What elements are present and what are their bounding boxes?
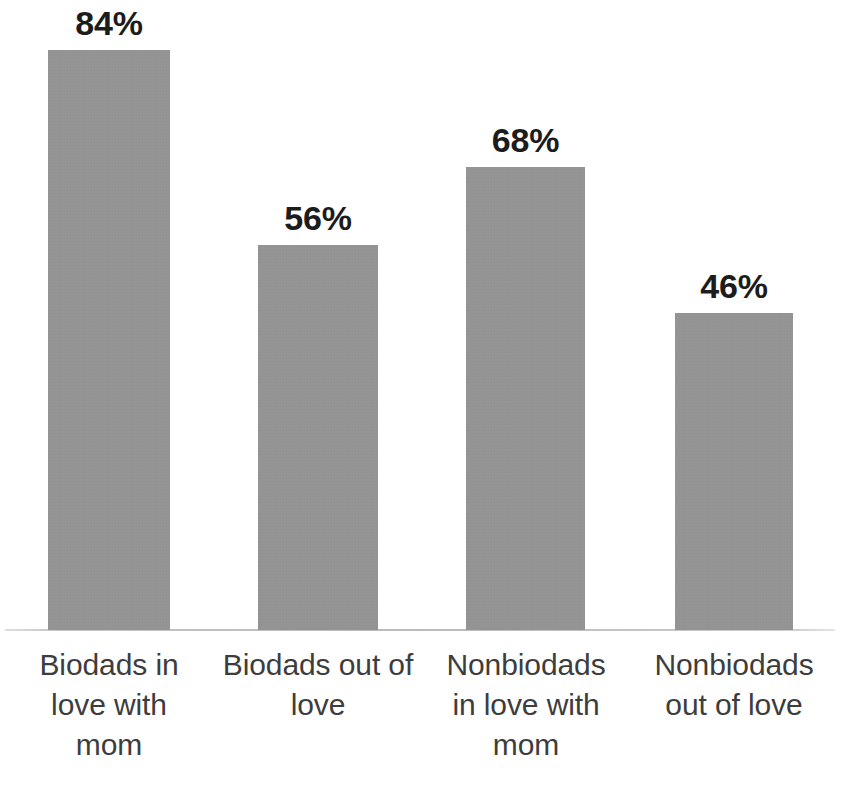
category-label-line: in love with [424, 685, 628, 725]
category-label-line: Nonbiodads [424, 645, 628, 685]
bar-value-label-1: 56% [236, 201, 400, 235]
bar-value-label-2: 68% [444, 123, 607, 157]
category-label-2: Nonbiodadsin love withmom [424, 645, 628, 765]
bar-group-1: 56% [258, 245, 378, 630]
bar-chart: 84% 56% 68% 46% Biodads inlove withmom B… [0, 0, 842, 785]
category-label-line: love [218, 685, 418, 725]
category-label-3: Nonbiodadsout of love [634, 645, 834, 725]
bar-2[interactable] [466, 167, 585, 630]
bar-1[interactable] [258, 245, 378, 630]
bar-group-2: 68% [466, 167, 585, 630]
category-label-line: out of love [634, 685, 834, 725]
category-label-line: Biodads in [10, 645, 208, 685]
category-label-1: Biodads out oflove [218, 645, 418, 725]
bar-value-label-0: 84% [26, 6, 192, 40]
bar-group-0: 84% [48, 50, 170, 630]
bar-value-label-3: 46% [653, 269, 815, 303]
bar-0[interactable] [48, 50, 170, 630]
category-label-line: mom [10, 725, 208, 765]
x-axis-category-labels: Biodads inlove withmom Biodads out oflov… [0, 645, 842, 785]
category-label-line: love with [10, 685, 208, 725]
category-label-line: Biodads out of [218, 645, 418, 685]
category-label-0: Biodads inlove withmom [10, 645, 208, 765]
bar-group-3: 46% [675, 313, 793, 630]
bar-3[interactable] [675, 313, 793, 630]
category-label-line: mom [424, 725, 628, 765]
plot-area: 84% 56% 68% 46% [0, 0, 842, 631]
category-label-line: Nonbiodads [634, 645, 834, 685]
